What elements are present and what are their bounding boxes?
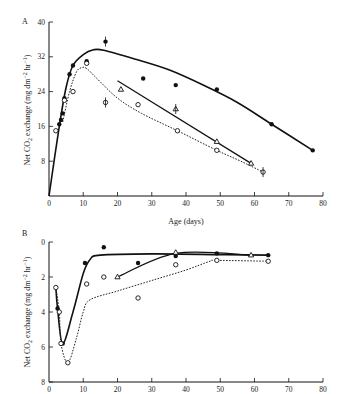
x-tick-label: 60 [251, 199, 259, 208]
y-tick-label: 32 [38, 52, 46, 61]
x-tick-label: 30 [148, 385, 156, 394]
data-point-filled [59, 118, 63, 122]
y-tick-label: 40 [38, 18, 46, 27]
series-curve [56, 260, 268, 363]
x-tick-label: 60 [251, 385, 259, 394]
data-point-open [102, 275, 106, 279]
data-point-filled [266, 253, 270, 257]
panel-b: 0246801020304050607080 [41, 238, 327, 394]
data-point-filled [57, 122, 61, 126]
data-point-open [66, 361, 70, 365]
x-tick-label: 20 [114, 385, 122, 394]
data-point-filled [61, 111, 65, 115]
y-tick-label: 8 [41, 378, 45, 387]
x-axis-label: Age (days) [168, 217, 204, 226]
y-axis-label-b: Net CO2 exchange (mg dm−2 hr−1) [22, 256, 33, 367]
y-tick-label: 0 [41, 238, 45, 247]
x-tick-label: 70 [285, 199, 293, 208]
x-tick-label: 10 [80, 385, 88, 394]
x-tick-label: 0 [47, 199, 51, 208]
data-point-filled [141, 76, 145, 80]
data-point-triangle [118, 87, 123, 92]
x-tick-label: 40 [182, 385, 190, 394]
panel-label-a: A [22, 17, 28, 26]
data-point-open [266, 259, 270, 263]
data-point-filled [215, 87, 219, 91]
y-tick-label: 4 [41, 308, 45, 317]
panel-label-b: B [22, 229, 27, 238]
series-curve [49, 49, 313, 196]
data-point-open [71, 89, 75, 93]
data-point-open [84, 61, 88, 65]
data-point-open [136, 296, 140, 300]
y-tick-label: 24 [38, 87, 46, 96]
data-point-open [136, 102, 140, 106]
data-point-open [54, 129, 58, 133]
series-curve [118, 81, 252, 164]
x-tick-label: 40 [182, 199, 190, 208]
x-tick-label: 80 [319, 199, 327, 208]
data-point-open [175, 129, 179, 133]
data-point-filled [215, 251, 219, 255]
data-point-filled [83, 261, 87, 265]
data-point-filled [71, 63, 75, 67]
x-tick-label: 30 [148, 199, 156, 208]
data-point-filled [174, 83, 178, 87]
y-tick-label: 16 [38, 122, 46, 131]
x-tick-label: 80 [319, 385, 327, 394]
series-curve [63, 67, 263, 172]
data-point-open [215, 148, 219, 152]
chart-figure: A B 40322416801020304050607080 024680102… [0, 0, 345, 394]
x-tick-label: 50 [217, 385, 225, 394]
data-point-open [174, 263, 178, 267]
y-tick-label: 6 [41, 343, 45, 352]
y-tick-label: 8 [41, 157, 45, 166]
x-tick-label: 70 [285, 385, 293, 394]
data-point-open [62, 98, 66, 102]
data-point-open [59, 341, 63, 345]
x-tick-label: 0 [47, 385, 51, 394]
y-tick-label: 2 [41, 273, 45, 282]
data-point-open [84, 282, 88, 286]
x-tick-label: 20 [114, 199, 122, 208]
data-point-triangle [173, 250, 178, 255]
data-point-filled [136, 261, 140, 265]
panel-a: 40322416801020304050607080 [38, 18, 328, 209]
x-tick-label: 10 [80, 199, 88, 208]
data-point-filled [269, 122, 273, 126]
data-point-open [57, 310, 61, 314]
data-point-open [54, 285, 58, 289]
data-point-filled [67, 72, 71, 76]
data-point-open [215, 258, 219, 262]
data-point-filled [102, 245, 106, 249]
data-point-filled [311, 148, 315, 152]
y-axis-label-a: Net CO2 exchange (mg dm−2 hr−1) [22, 54, 33, 165]
x-tick-label: 50 [217, 199, 225, 208]
series-curve [56, 254, 268, 344]
